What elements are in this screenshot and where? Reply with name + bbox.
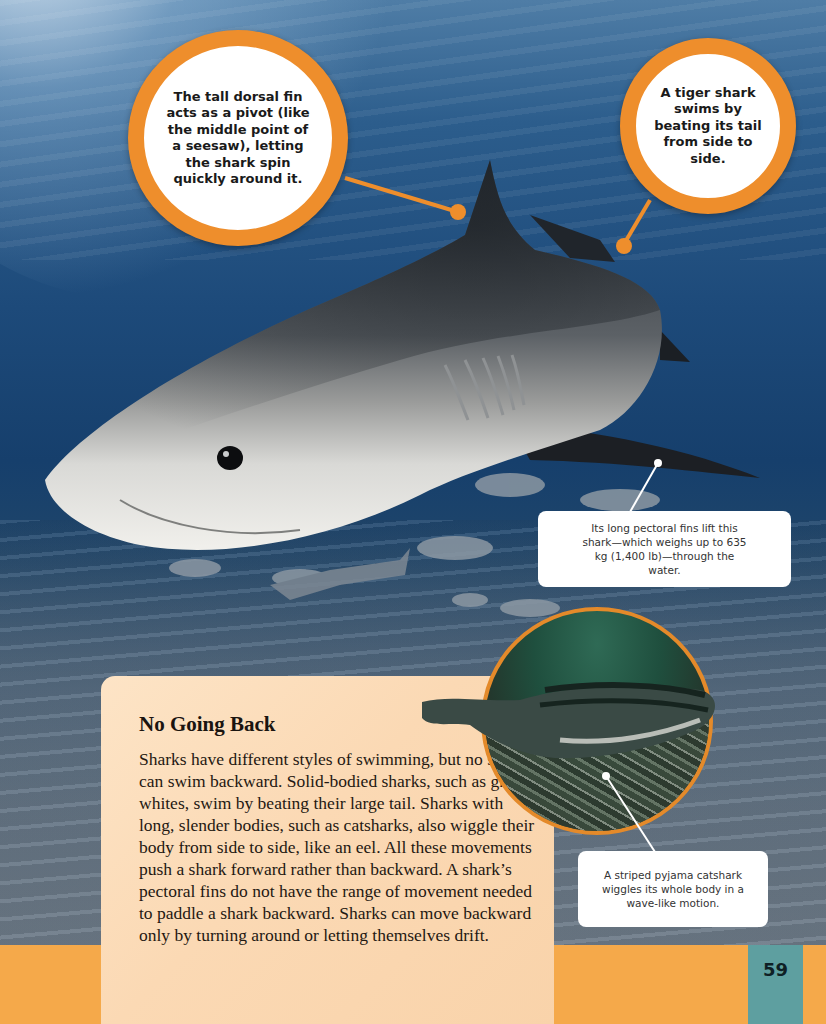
caption-catshark: A striped pyjama catshark wiggles its wh… (578, 851, 768, 927)
caption-catshark-text: A striped pyjama catshark wiggles its wh… (578, 868, 768, 910)
book-page: The tall dorsal fin acts as a pivot (lik… (0, 0, 826, 1024)
catshark-leader-line (606, 776, 655, 852)
